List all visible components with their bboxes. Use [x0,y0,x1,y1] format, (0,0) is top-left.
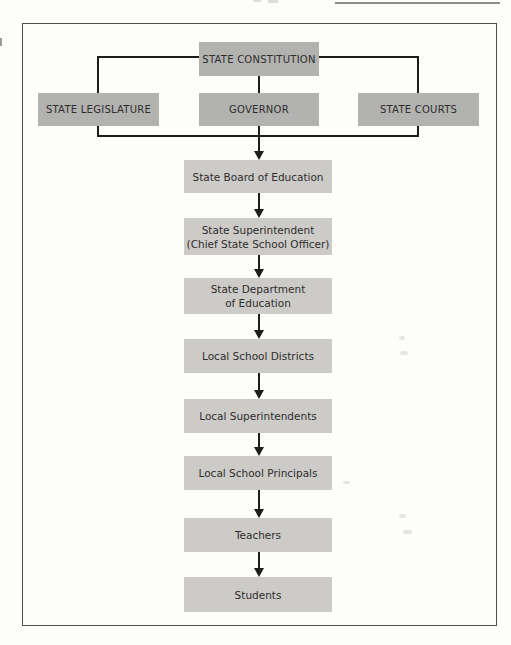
chain-arrow-line [258,314,260,330]
arrow-down-icon [254,568,264,577]
scan-smudge [399,336,405,340]
page-edge-mark-artifact [0,38,2,46]
node-local-superintendents: Local Superintendents [184,399,332,433]
node-students: Students [184,577,332,612]
arrow-down-icon [254,447,264,456]
node-state-courts: STATE COURTS [358,93,479,126]
scan-smudge [399,514,406,518]
arrow-down-icon [254,151,264,160]
arrow-down-icon [254,390,264,399]
arrow-down-icon [254,509,264,518]
chain-arrow-line [258,193,260,209]
arrow-down-icon [254,269,264,278]
node-state-board-of-education: State Board of Education [184,160,332,193]
chain-arrow-line [258,373,260,390]
cropped-text-fragment [253,0,261,2]
node-state-department-of-education: State Department of Education [184,278,332,314]
chain-arrow-line [258,490,260,509]
node-state-constitution: STATE CONSTITUTION [199,42,319,76]
chain-arrow-line [258,552,260,568]
node-teachers: Teachers [184,518,332,552]
scan-smudge [343,481,350,484]
chain-arrow-line [258,433,260,447]
cropped-text-fragment [268,0,278,3]
node-governor: GOVERNOR [199,93,319,126]
arrow-down-icon [254,209,264,218]
arrow-down-icon [254,330,264,339]
scan-smudge [400,351,408,355]
chain-arrow-line [258,255,260,269]
node-state-superintendent: State Superintendent (Chief State School… [184,218,332,255]
node-state-legislature: STATE LEGISLATURE [38,93,159,126]
scan-smudge [403,530,412,534]
cropped-rule-artifact [335,2,500,4]
figure-canvas: STATE CONSTITUTION STATE LEGISLATURE GOV… [0,0,511,645]
node-local-school-principals: Local School Principals [184,456,332,490]
node-local-school-districts: Local School Districts [184,339,332,373]
